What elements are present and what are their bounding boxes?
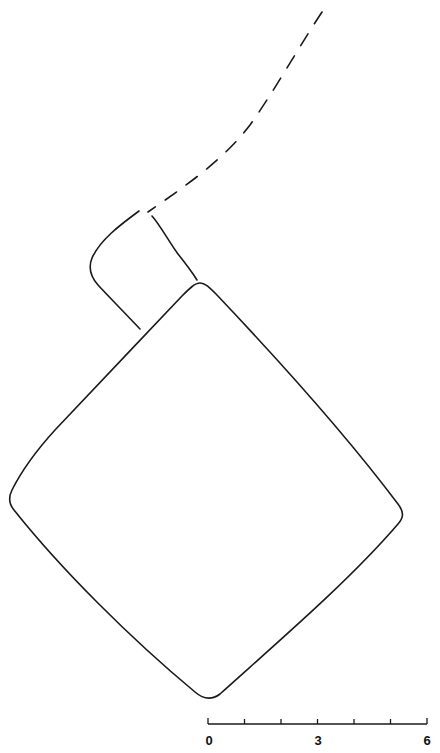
annex-structure-outline xyxy=(90,211,140,329)
main-structure-outline xyxy=(10,283,403,698)
site-plan-drawing xyxy=(0,0,440,753)
projected-wall-line xyxy=(148,12,322,212)
scale-label-max: 6 xyxy=(423,733,430,748)
scale-label-mid: 3 xyxy=(314,733,321,748)
annex-structure-right-wall xyxy=(152,216,197,280)
scale-label-min: 0 xyxy=(205,733,212,748)
scale-bar xyxy=(208,718,427,724)
